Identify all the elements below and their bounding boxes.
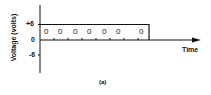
x-axis-arrow-icon [192,38,201,43]
bit-label: 0 [87,27,91,36]
bit-label: 0 [139,27,143,36]
pulse-waveform [40,25,149,41]
bit-label: 0 [44,27,48,36]
figure-caption: (a) [99,79,106,85]
bit-label: 0 [58,27,62,36]
bit-label: 0 [73,27,77,36]
y-tick-plus6: +6 [26,20,34,27]
y-axis-label: Voltage (volts) [10,3,17,73]
y-tick-0: 0 [31,36,35,43]
x-axis-label: Time [182,46,198,53]
bit-label: 0 [116,27,120,36]
bit-label: 0 [102,27,106,36]
y-tick-minus6: -6 [29,51,35,58]
